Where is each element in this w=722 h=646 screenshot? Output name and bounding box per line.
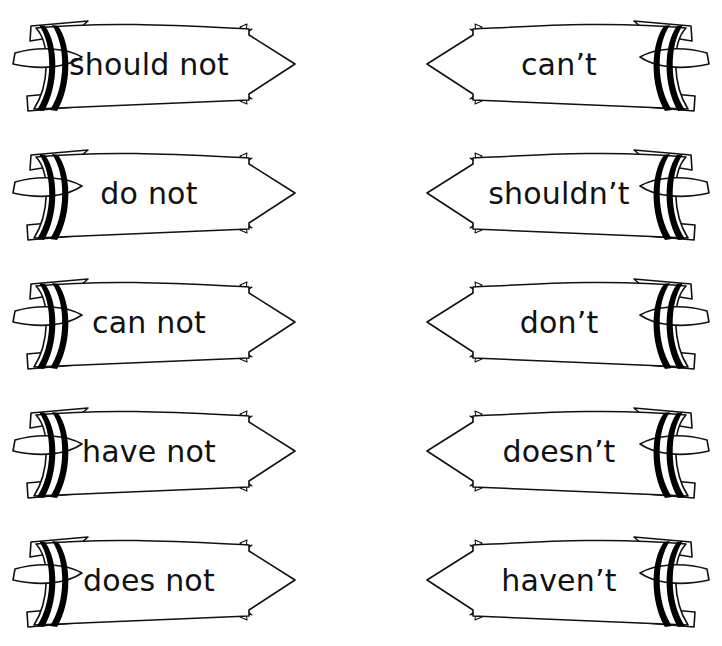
arrow-label: can’t <box>453 0 665 129</box>
arrow-banner-right[interactable]: do not <box>0 129 361 258</box>
arrow-banner-left[interactable]: doesn’t <box>361 387 722 516</box>
arrow-banner-right[interactable]: should not <box>0 0 361 129</box>
arrow-banner-left[interactable]: don’t <box>361 258 722 387</box>
worksheet-board: should not can’t <box>0 0 722 646</box>
arrow-label: haven’t <box>453 516 665 645</box>
arrow-row: should not can’t <box>0 0 722 129</box>
arrow-banner-left[interactable]: haven’t <box>361 516 722 645</box>
arrow-label: should not <box>44 0 254 129</box>
arrow-row: does not haven’t <box>0 516 722 645</box>
arrow-banner-right[interactable]: have not <box>0 387 361 516</box>
arrow-label: don’t <box>453 258 665 387</box>
arrow-row: can not don’t <box>0 258 722 387</box>
arrow-label: do not <box>44 129 254 258</box>
arrow-label: doesn’t <box>453 387 665 516</box>
arrow-label: does not <box>44 516 254 645</box>
arrow-label: have not <box>44 387 254 516</box>
arrow-row: have not doesn’t <box>0 387 722 516</box>
arrow-label: shouldn’t <box>453 129 665 258</box>
arrow-label: can not <box>44 258 254 387</box>
arrow-banner-left[interactable]: shouldn’t <box>361 129 722 258</box>
arrow-banner-right[interactable]: does not <box>0 516 361 645</box>
arrow-row: do not shouldn’t <box>0 129 722 258</box>
arrow-banner-left[interactable]: can’t <box>361 0 722 129</box>
arrow-banner-right[interactable]: can not <box>0 258 361 387</box>
